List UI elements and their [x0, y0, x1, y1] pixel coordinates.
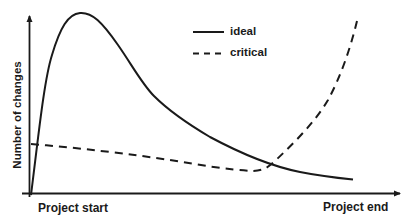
chart-canvas	[0, 0, 412, 224]
y-axis-label: Number of changes	[11, 61, 23, 168]
legend-label-ideal: ideal	[230, 25, 256, 37]
series-critical-line	[31, 21, 357, 171]
series-ideal-line	[31, 13, 353, 195]
x-tick-project-end: Project end	[323, 200, 388, 214]
x-tick-project-start: Project start	[38, 201, 108, 215]
legend-label-critical: critical	[230, 46, 267, 58]
